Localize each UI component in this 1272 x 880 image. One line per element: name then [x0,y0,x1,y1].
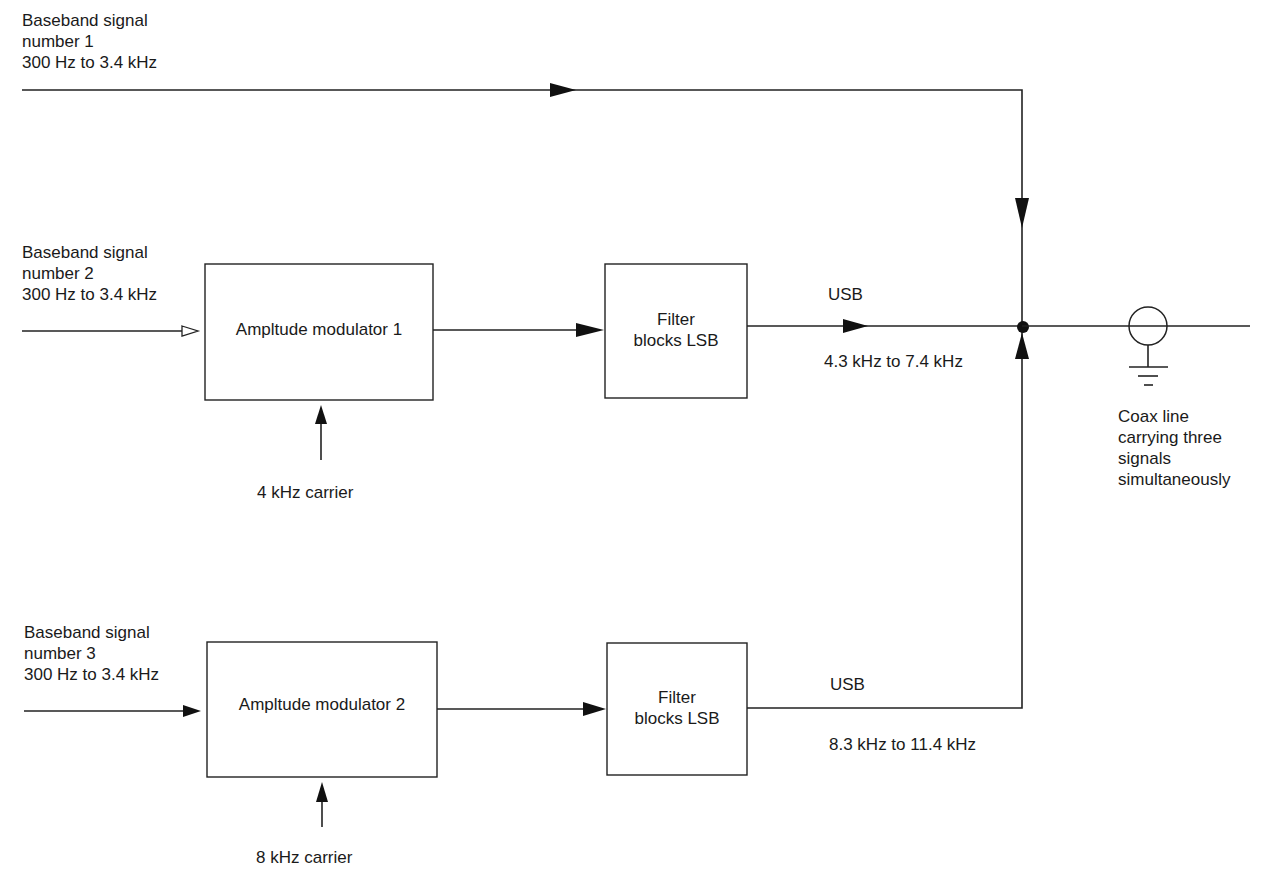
input-3-title: Baseband signal [24,622,159,643]
arrow-right-icon [843,319,868,333]
coax-label-line-4: simultaneously [1118,469,1230,490]
output-1-sideband: USB [828,284,863,305]
filter-1-desc: blocks LSB [605,330,747,351]
ground-icon [1129,345,1168,385]
coax-label-line-3: signals [1118,448,1230,469]
arrow-up-icon [1015,333,1029,359]
input-3-number: number 3 [24,643,159,664]
input-1-range: 300 Hz to 3.4 kHz [22,52,157,73]
output-2-range: 8.3 kHz to 11.4 kHz [829,734,976,755]
amplitude-modulator-2-label: Ampltude modulator 2 [207,694,437,715]
carrier-2-label: 8 kHz carrier [256,847,352,868]
filter-2-label: Filter blocks LSB [607,687,747,729]
junction-dot-icon [1017,321,1029,333]
arrow-right-icon [183,705,201,717]
input-1-title: Baseband signal [22,10,157,31]
input-1-label: Baseband signal number 1 300 Hz to 3.4 k… [22,10,157,73]
output-1-range: 4.3 kHz to 7.4 kHz [824,351,963,372]
filter-1-title: Filter [605,309,747,330]
output-2-sideband: USB [830,674,865,695]
input-2-number: number 2 [22,263,157,284]
amplitude-modulator-1-label: Ampltude modulator 1 [205,319,433,340]
filter-2-title: Filter [607,687,747,708]
arrow-right-icon [576,323,604,337]
input-2-label: Baseband signal number 2 300 Hz to 3.4 k… [22,242,157,305]
diagram-canvas [0,0,1272,880]
input-2-range: 300 Hz to 3.4 kHz [22,284,157,305]
carrier-1-label: 4 kHz carrier [257,482,353,503]
coax-label: Coax line carrying three signals simulta… [1118,406,1230,490]
signal-1-path [22,83,1029,326]
arrow-right-icon [550,83,576,97]
arrow-up-icon [316,782,328,802]
input-2-title: Baseband signal [22,242,157,263]
arrow-down-icon [1015,198,1029,228]
arrow-right-icon [583,702,606,716]
input-1-number: number 1 [22,31,157,52]
coax-label-line-2: carrying three [1118,427,1230,448]
input-3-label: Baseband signal number 3 300 Hz to 3.4 k… [24,622,159,685]
arrow-up-icon [315,405,327,424]
coax-label-line-1: Coax line [1118,406,1230,427]
hollow-arrow-right-icon [182,326,198,336]
filter-2-desc: blocks LSB [607,708,747,729]
input-3-range: 300 Hz to 3.4 kHz [24,664,159,685]
filter-1-label: Filter blocks LSB [605,309,747,351]
coax-output [1017,307,1250,385]
